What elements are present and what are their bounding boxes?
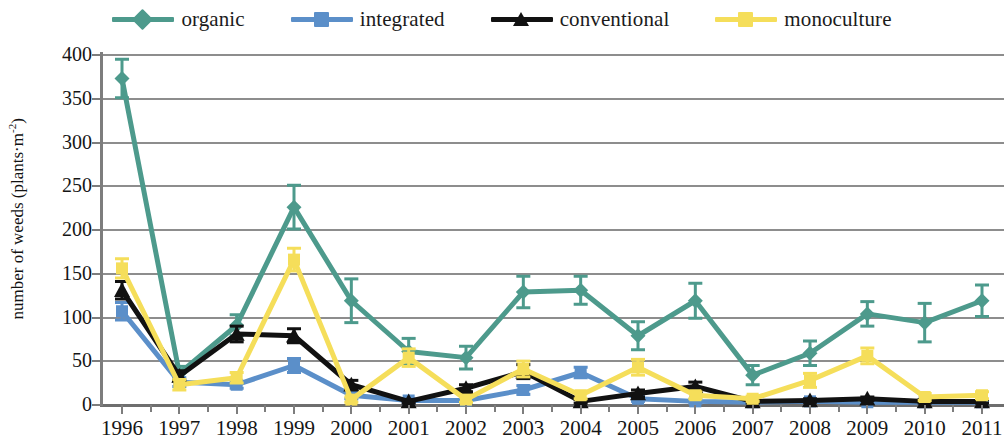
x-minor-tick-8 bbox=[608, 405, 610, 412]
x-minor-tick-6 bbox=[494, 405, 496, 412]
x-tick-mark-1996 bbox=[121, 405, 123, 414]
data-point-marker-square-icon bbox=[575, 389, 587, 401]
data-point-marker-square-icon bbox=[116, 262, 128, 274]
y-tick-mark-50 bbox=[92, 360, 103, 362]
legend-marker-conventional-icon bbox=[491, 11, 553, 27]
x-minor-tick-5 bbox=[436, 405, 438, 412]
data-point-marker-square-icon bbox=[116, 305, 128, 317]
x-minor-tick-4 bbox=[379, 405, 381, 412]
y-tick-mark-300 bbox=[92, 142, 103, 144]
data-point-marker-square-icon bbox=[345, 394, 357, 406]
data-point-marker-square-icon bbox=[460, 394, 472, 406]
x-tick-mark-2010 bbox=[924, 405, 926, 414]
legend-item-integrated[interactable]: integrated bbox=[291, 7, 445, 32]
x-tick-mark-2002 bbox=[465, 405, 467, 414]
data-point-marker-square-icon bbox=[288, 360, 300, 372]
data-point-marker-diamond-icon bbox=[975, 293, 990, 308]
x-minor-tick-2 bbox=[264, 405, 266, 412]
data-point-marker-square-icon bbox=[517, 363, 529, 375]
series-conventional bbox=[114, 282, 990, 409]
x-tick-mark-2004 bbox=[580, 405, 582, 414]
series-line-organic bbox=[122, 79, 982, 376]
legend-item-organic[interactable]: organic bbox=[112, 7, 244, 32]
legend-marker-monoculture-icon bbox=[715, 11, 777, 27]
legend-marker-integrated-icon bbox=[291, 11, 353, 27]
y-tick-mark-0 bbox=[92, 404, 103, 406]
x-minor-tick-7 bbox=[551, 405, 553, 412]
data-point-marker-diamond-icon bbox=[115, 71, 130, 86]
legend-label-conventional: conventional bbox=[560, 7, 670, 32]
series-svg bbox=[0, 38, 1004, 446]
x-tick-mark-2003 bbox=[522, 405, 524, 414]
legend-item-monoculture[interactable]: monoculture bbox=[715, 7, 891, 32]
legend-symbol-square-icon bbox=[738, 12, 753, 27]
x-minor-tick-13 bbox=[895, 405, 897, 412]
chart-legend: organicintegratedconventionalmonoculture bbox=[0, 0, 1004, 38]
legend-marker-organic-icon bbox=[112, 11, 174, 27]
legend-label-monoculture: monoculture bbox=[784, 7, 891, 32]
legend-item-conventional[interactable]: conventional bbox=[491, 7, 670, 32]
x-minor-tick-3 bbox=[322, 405, 324, 412]
data-point-marker-square-icon bbox=[632, 361, 644, 373]
chart-root: organicintegratedconventionalmonoculture… bbox=[0, 0, 1004, 446]
x-minor-tick-9 bbox=[666, 405, 668, 412]
x-tick-mark-1998 bbox=[236, 405, 238, 414]
data-point-marker-square-icon bbox=[288, 254, 300, 266]
plot-area: number of weeds (plants·m-2) 40035030025… bbox=[0, 38, 1004, 446]
legend-symbol-square-icon bbox=[314, 12, 329, 27]
x-tick-mark-1999 bbox=[293, 405, 295, 414]
x-tick-mark-2005 bbox=[637, 405, 639, 414]
x-tick-mark-2008 bbox=[809, 405, 811, 414]
legend-symbol-triangle-icon bbox=[513, 12, 529, 26]
x-tick-mark-2001 bbox=[408, 405, 410, 414]
data-point-marker-square-icon bbox=[403, 352, 415, 364]
legend-symbol-diamond-icon bbox=[132, 9, 153, 30]
y-tick-mark-100 bbox=[92, 317, 103, 319]
x-tick-label-2011: 2011 bbox=[937, 416, 1004, 441]
data-point-marker-square-icon bbox=[575, 367, 587, 379]
data-point-marker-square-icon bbox=[861, 350, 873, 362]
data-point-marker-diamond-icon bbox=[917, 315, 932, 330]
legend-label-organic: organic bbox=[181, 7, 244, 32]
x-minor-tick-12 bbox=[838, 405, 840, 412]
y-tick-mark-250 bbox=[92, 185, 103, 187]
x-tick-mark-2007 bbox=[752, 405, 754, 414]
x-tick-mark-1997 bbox=[178, 405, 180, 414]
y-tick-mark-350 bbox=[92, 98, 103, 100]
x-tick-mark-2000 bbox=[350, 405, 352, 414]
y-tick-mark-200 bbox=[92, 229, 103, 231]
x-minor-tick-10 bbox=[723, 405, 725, 412]
x-tick-mark-2011 bbox=[981, 405, 983, 414]
x-minor-tick-11 bbox=[780, 405, 782, 412]
data-point-marker-square-icon bbox=[804, 374, 816, 386]
y-tick-mark-150 bbox=[92, 273, 103, 275]
series-layer bbox=[0, 38, 1004, 446]
legend-label-integrated: integrated bbox=[360, 7, 445, 32]
data-point-marker-square-icon bbox=[919, 391, 931, 403]
x-minor-tick-14 bbox=[952, 405, 954, 412]
y-tick-mark-400 bbox=[92, 54, 103, 56]
x-tick-mark-2006 bbox=[694, 405, 696, 414]
data-point-marker-square-icon bbox=[517, 384, 529, 396]
data-point-marker-square-icon bbox=[689, 389, 701, 401]
data-point-marker-square-icon bbox=[173, 379, 185, 391]
data-point-marker-square-icon bbox=[231, 372, 243, 384]
x-tick-mark-2009 bbox=[866, 405, 868, 414]
x-minor-tick-0 bbox=[150, 405, 152, 412]
data-point-marker-square-icon bbox=[747, 393, 759, 405]
x-minor-tick-1 bbox=[207, 405, 209, 412]
data-point-marker-square-icon bbox=[976, 389, 988, 401]
